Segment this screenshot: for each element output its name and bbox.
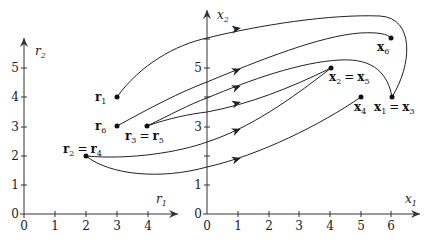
right-x-tick-3: 3 [295, 219, 303, 233]
left-x-tick-1: 1 [51, 219, 59, 233]
label-x2-x5: x2=x5 [329, 70, 370, 86]
curve-r5-x5 [147, 68, 331, 126]
x2-axis-label: x2 [217, 8, 229, 24]
point-r1 [115, 95, 120, 100]
left-x-tick-0: 0 [20, 219, 28, 233]
right-points [329, 36, 395, 100]
left-y-tick-5: 5 [11, 61, 19, 75]
mapping-curves [86, 16, 407, 174]
label-x1-x3: x1=x3 [374, 100, 415, 116]
right-y-ticks: 0 1 3 5 [194, 39, 210, 221]
right-y-tick-0: 0 [194, 207, 202, 221]
r2-axis-label: r2 [35, 44, 46, 60]
label-r2-r4: r2=r4 [63, 142, 102, 158]
mapping-diagram: 0 1 2 3 4 0 1 2 3 4 5 r1 r2 [0, 0, 432, 241]
right-x-tick-0: 0 [203, 219, 211, 233]
point-r6 [115, 124, 120, 129]
right-x-tick-6: 6 [387, 219, 395, 233]
label-x4: x4 [354, 100, 366, 116]
point-x1-x3 [390, 95, 395, 100]
left-y-tick-4: 4 [11, 90, 19, 104]
left-y-tick-0: 0 [11, 207, 19, 221]
left-y-ticks: 0 1 2 3 4 5 [11, 61, 27, 221]
right-y-tick-5: 5 [194, 61, 202, 75]
right-y-tick-3: 3 [194, 120, 202, 134]
curve-r1-x1 [117, 16, 407, 97]
label-r1: r1 [95, 90, 106, 106]
left-y-tick-2: 2 [11, 149, 19, 163]
label-r6: r6 [95, 119, 106, 135]
arrow-icon [231, 125, 242, 136]
label-r3-r5: r3=r5 [125, 129, 164, 145]
right-x-tick-4: 4 [326, 219, 334, 233]
left-y-tick-3: 3 [11, 120, 19, 134]
right-plot: 0 1 2 3 4 5 6 0 1 3 5 x1 x2 [194, 8, 420, 233]
curve-arrowheads [231, 24, 242, 164]
left-x-tick-3: 3 [113, 219, 121, 233]
right-x-tick-5: 5 [357, 219, 365, 233]
r1-axis-label: r1 [156, 192, 167, 208]
right-y-tick-1: 1 [194, 178, 202, 192]
arrow-icon [231, 65, 242, 75]
point-x4 [359, 95, 364, 100]
left-x-tick-2: 2 [82, 219, 90, 233]
left-y-tick-1: 1 [11, 178, 19, 192]
x1-axis-label: x1 [405, 192, 417, 208]
label-x6: x6 [377, 40, 389, 56]
right-x-tick-1: 1 [234, 219, 242, 233]
point-x6 [389, 36, 394, 41]
right-x-tick-2: 2 [265, 219, 273, 233]
point-r3-r5 [145, 124, 150, 129]
left-x-tick-4: 4 [144, 219, 152, 233]
